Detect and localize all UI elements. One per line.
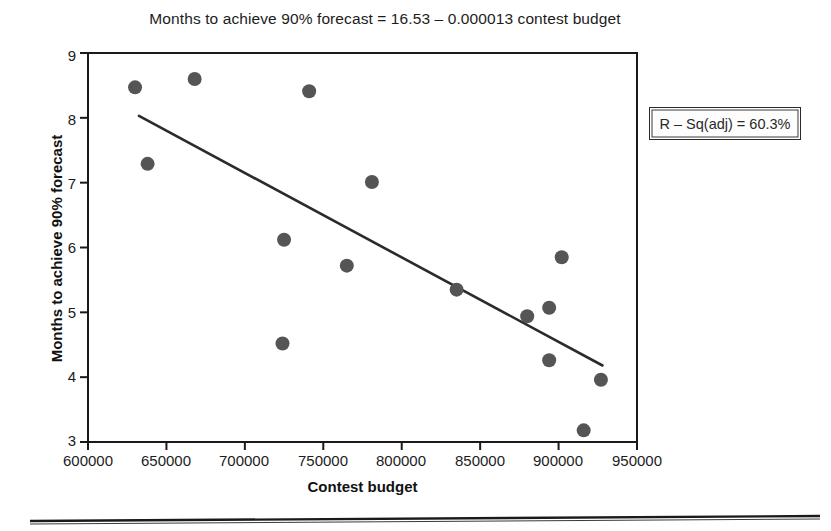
data-point [542,301,556,315]
data-point [276,336,290,350]
data-point [450,283,464,297]
scatter-plot-figure: Months to achieve 90% forecast = 16.53 –… [0,0,831,531]
plot-canvas [0,0,831,531]
data-point [365,175,379,189]
data-points-group [128,72,608,437]
data-point [277,233,291,247]
data-point [577,423,591,437]
data-point [542,353,556,367]
data-point [555,250,569,264]
regression-line [139,116,603,366]
data-point [141,157,155,171]
data-point [340,259,354,273]
data-point [594,373,608,387]
axis-ticks [80,53,637,450]
data-point [302,84,316,98]
data-point [128,80,142,94]
data-point [520,309,534,323]
bottom-horizontal-rule [30,516,820,524]
data-point [188,72,202,86]
plot-frame [88,53,637,442]
